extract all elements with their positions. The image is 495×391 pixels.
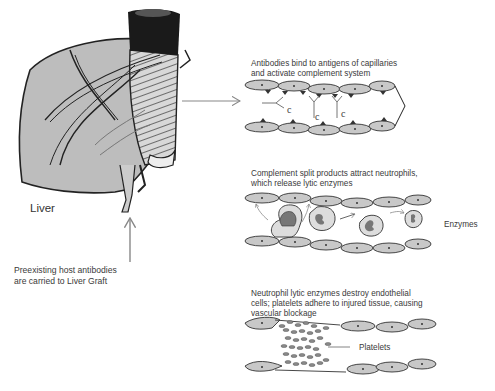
- platelets-label: Platelets: [359, 343, 390, 353]
- enzymes-label: Enzymes: [444, 220, 478, 230]
- liver-label: Liver: [30, 203, 55, 213]
- panel2-title-line1: Complement split products attract neutro…: [251, 169, 418, 179]
- capillary-panel-1: [245, 80, 405, 135]
- panel3-title-line2: cells; platelets adhere to injured tissu…: [251, 299, 423, 309]
- diagram-canvas: [0, 0, 495, 391]
- capillary-panel-3: [245, 317, 436, 374]
- panel3-title-line1: Neutrophil lytic enzymes destroy endothe…: [251, 289, 411, 299]
- platelet-cluster: [279, 320, 331, 366]
- complement-mark-3: c: [341, 109, 345, 119]
- panel3-title-line3: vascular blockage: [251, 309, 317, 319]
- panel1-title-line1: Antibodies bind to antigens of capillari…: [251, 59, 397, 69]
- liver-illustration: [19, 9, 190, 212]
- complement-mark-1: c: [287, 105, 291, 115]
- panel1-title-line2: and activate complement system: [251, 69, 370, 79]
- complement-mark-2: c: [315, 112, 319, 122]
- antibodies-caption-line1: Preexisting host antibodies: [14, 265, 117, 276]
- capillary-panel-2: [245, 193, 431, 253]
- panel2-title-line2: which release lytic enzymes: [251, 179, 352, 189]
- antibodies-caption-line2: are carried to Liver Graft: [14, 276, 107, 287]
